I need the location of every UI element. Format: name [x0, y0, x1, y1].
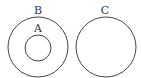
venn-diagram: B A C	[0, 0, 141, 78]
set-b-label: B	[34, 4, 42, 17]
set-a-circle	[25, 35, 51, 61]
set-a-label: A	[33, 22, 43, 35]
set-c-label: C	[101, 4, 109, 17]
set-c-circle	[76, 17, 136, 77]
